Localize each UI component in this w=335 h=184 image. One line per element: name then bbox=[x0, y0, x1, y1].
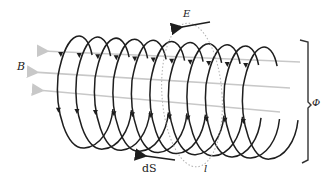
coil-turn bbox=[242, 47, 298, 159]
label-phi: Φ bbox=[312, 98, 320, 108]
label-ds: dS bbox=[142, 163, 157, 174]
diagram-canvas bbox=[0, 0, 335, 184]
label-l: l bbox=[204, 164, 207, 174]
flux-bracket bbox=[300, 40, 311, 163]
coil-turn bbox=[205, 45, 261, 157]
label-b: B bbox=[17, 61, 25, 72]
coil-turn bbox=[224, 46, 280, 158]
solenoid-diagram: B E Φ dS l bbox=[0, 0, 335, 184]
coil-turn bbox=[187, 44, 243, 156]
ds-arrow bbox=[146, 156, 175, 160]
label-e: E bbox=[183, 9, 190, 19]
solenoid-coil bbox=[56, 36, 298, 159]
coil-turn bbox=[168, 43, 224, 155]
field-line bbox=[43, 91, 280, 112]
